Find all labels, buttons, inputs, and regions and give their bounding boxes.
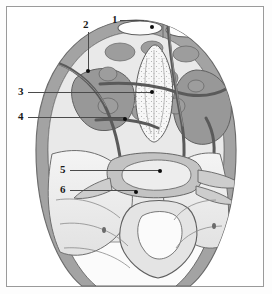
callout-dot-5 xyxy=(158,169,162,173)
anatomical-illustration xyxy=(0,0,272,294)
callout-number-5: 5 xyxy=(60,164,66,175)
leader-line-3-0 xyxy=(28,92,152,93)
callout-dot-3 xyxy=(150,90,154,94)
rectus-abdominis-left xyxy=(118,21,162,35)
leader-line-2-0 xyxy=(88,32,89,71)
levator-inner-canal xyxy=(122,160,191,190)
figure-root: 123456 xyxy=(0,0,272,294)
callout-number-2: 2 xyxy=(83,19,89,30)
callout-number-6: 6 xyxy=(60,184,66,195)
callout-dot-4 xyxy=(123,117,127,121)
callout-dot-6 xyxy=(134,190,138,194)
leader-line-4-0 xyxy=(28,117,125,118)
rectus-abdominis-right xyxy=(166,23,206,37)
leader-line-1-0 xyxy=(120,20,144,21)
leader-line-5-0 xyxy=(70,170,160,171)
callout-number-3: 3 xyxy=(18,86,24,97)
leader-line-6-0 xyxy=(70,190,136,191)
body-contents xyxy=(36,20,244,286)
callout-number-4: 4 xyxy=(18,111,24,122)
callout-dot-2 xyxy=(86,69,90,73)
callout-number-1: 1 xyxy=(112,14,118,25)
callout-dot-1 xyxy=(150,25,154,29)
